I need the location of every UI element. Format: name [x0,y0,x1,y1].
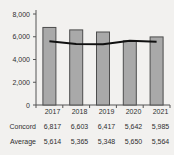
category-label-2018: 2018 [66,104,93,119]
average-value-2017: 5,614 [39,134,66,149]
table-row: Concord 6,817 6,603 6,417 5,642 5,985 [0,119,174,134]
bar-2020 [123,41,136,105]
category-row-spacer [0,104,39,119]
bar-2018 [70,30,83,105]
category-label-2019: 2019 [93,104,120,119]
series-label-average: Average [0,134,39,149]
concord-value-2020: 5,642 [120,119,147,134]
category-label-2017: 2017 [39,104,66,119]
category-label-2020: 2020 [120,104,147,119]
concord-value-2021: 5,985 [147,119,174,134]
average-value-2018: 5,365 [66,134,93,149]
concord-value-2019: 6,417 [93,119,120,134]
chart-data-table: 2017 2018 2019 2020 2021 Concord 6,817 6… [0,104,174,149]
bar-2017 [43,27,56,105]
average-value-2021: 5,564 [147,134,174,149]
table-row: Average 5,614 5,365 5,348 5,650 5,564 [0,134,174,149]
table-row-categories: 2017 2018 2019 2020 2021 [0,104,174,119]
concord-value-2018: 6,603 [66,119,93,134]
y-axis-tick-label: 6,000 [12,33,30,40]
y-axis-tick-label: 4,000 [12,56,30,63]
y-axis-tick-label: 2,000 [12,79,30,86]
average-value-2020: 5,650 [120,134,147,149]
concord-value-2017: 6,817 [39,119,66,134]
category-label-2021: 2021 [147,104,174,119]
average-value-2019: 5,348 [93,134,120,149]
chart-plot-area: 02,0004,0006,0008,000 [0,0,174,112]
series-label-concord: Concord [0,119,39,134]
bar-2021 [150,37,163,105]
y-axis-tick-label: 8,000 [12,11,30,18]
chart-svg: 02,0004,0006,0008,000 [0,0,174,112]
combo-chart-with-data-table: 02,0004,0006,0008,000 2017 2018 2019 202… [0,0,174,155]
